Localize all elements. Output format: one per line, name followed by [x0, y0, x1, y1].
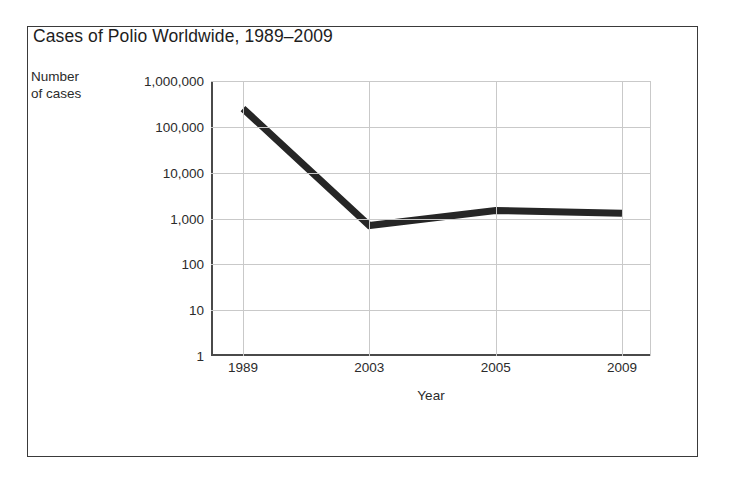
y-axis-tick-label: 100 — [181, 257, 211, 272]
gridline-vertical — [369, 81, 370, 356]
gridline-horizontal — [211, 310, 651, 311]
x-axis-tick-label: 2003 — [354, 360, 384, 375]
gridline-horizontal — [211, 127, 651, 128]
gridline-vertical — [496, 81, 497, 356]
gridline-vertical-right-edge — [650, 81, 651, 356]
x-axis-tick-labels: 1989200320052009 — [211, 360, 651, 382]
gridline-horizontal — [211, 173, 651, 174]
gridline-horizontal — [211, 264, 651, 265]
y-axis-tick-label: 10,000 — [163, 165, 211, 180]
chart-title: Cases of Polio Worldwide, 1989–2009 — [33, 26, 333, 47]
y-axis-tick-label: 1,000 — [170, 211, 211, 226]
gridline-vertical — [622, 81, 623, 356]
gridline-horizontal — [211, 219, 651, 220]
x-axis-tick-label: 2005 — [481, 360, 511, 375]
gridline-vertical — [243, 81, 244, 356]
y-axis-tick-label: 1 — [196, 349, 211, 364]
x-axis-title: Year — [211, 388, 651, 403]
gridline-horizontal — [211, 81, 651, 82]
y-axis-tick-label: 1,000,000 — [144, 74, 211, 89]
y-axis-tick-label: 10 — [189, 303, 211, 318]
x-axis-tick-label: 2009 — [607, 360, 637, 375]
y-axis-tick-labels: 1,000,000100,00010,0001,000100101 — [76, 81, 211, 356]
x-axis-tick-label: 1989 — [228, 360, 258, 375]
y-axis-tick-label: 100,000 — [155, 119, 211, 134]
plot-area — [211, 81, 651, 356]
